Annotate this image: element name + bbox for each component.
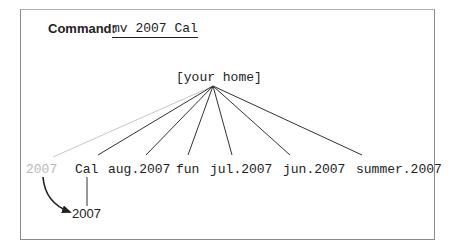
edge-jul [213, 86, 232, 155]
node-jun-2007: jun.2007 [283, 162, 345, 177]
edge-jun [213, 86, 290, 155]
node-2007-old: 2007 [26, 162, 57, 177]
node-aug-2007: aug.2007 [108, 162, 170, 177]
node-jul-2007: jul.2007 [210, 162, 272, 177]
edge-summer [213, 86, 362, 155]
edge-2007-faded [53, 86, 213, 157]
node-summer-2007: summer.2007 [356, 162, 442, 177]
edge-fun [188, 86, 213, 155]
move-arrow-icon [43, 177, 70, 212]
node-cal: Cal [75, 162, 99, 177]
node-2007-moved: 2007 [72, 206, 101, 221]
root-node: [your home] [176, 70, 262, 85]
node-fun: fun [176, 162, 199, 177]
directory-tree: [your home] 2007 Cal aug.2007 fun jul.20… [0, 0, 453, 252]
